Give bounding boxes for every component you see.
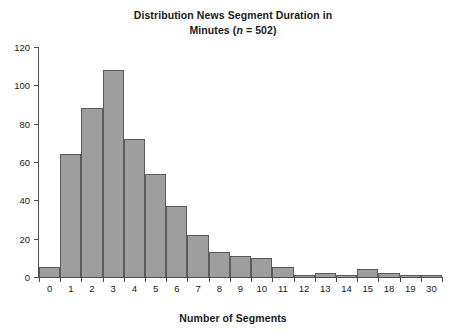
x-axis-tick-label: 7 (187, 284, 209, 294)
y-axis-tick (34, 200, 38, 201)
x-axis-tick (81, 277, 82, 282)
bar (60, 154, 81, 277)
x-axis-tick (145, 277, 146, 282)
bar (400, 275, 421, 277)
y-axis-tick-label: 0 (4, 273, 30, 282)
y-axis-tick (34, 124, 38, 125)
x-axis-tick (272, 277, 273, 282)
x-axis-tick (315, 277, 316, 282)
histogram-chart: Distribution News Segment Duration in Mi… (0, 0, 466, 335)
x-axis-tick-label: 30 (420, 284, 442, 294)
bar (357, 269, 378, 277)
x-axis-title: Number of Segments (0, 312, 466, 324)
x-axis-tick-label: 13 (314, 284, 336, 294)
bar (294, 275, 315, 277)
x-axis-tick (400, 277, 401, 282)
x-axis-tick (442, 277, 443, 282)
x-axis-tick (187, 277, 188, 282)
x-axis-tick-label: 14 (336, 284, 358, 294)
y-axis-tick-label: 20 (4, 235, 30, 244)
x-axis-tick-label: 10 (251, 284, 273, 294)
plot-area (38, 47, 442, 277)
bar (315, 273, 336, 277)
bar (145, 174, 166, 278)
y-axis-tick (34, 85, 38, 86)
bar (166, 206, 187, 277)
y-axis-tick-label: 100 (4, 81, 30, 90)
x-axis-tick (60, 277, 61, 282)
y-axis-tick-label: 80 (4, 120, 30, 129)
x-axis-tick (336, 277, 337, 282)
chart-title-prefix: Minutes ( (189, 24, 236, 36)
bar (336, 275, 357, 277)
x-axis-tick (39, 277, 40, 282)
x-axis-tick (124, 277, 125, 282)
y-axis-tick-label: 40 (4, 196, 30, 205)
x-axis-tick (103, 277, 104, 282)
x-axis-tick-label: 3 (102, 284, 124, 294)
x-axis-tick (230, 277, 231, 282)
chart-title-line-1: Distribution News Segment Duration in (0, 8, 466, 23)
bar (187, 235, 208, 277)
y-axis-tick (34, 277, 38, 278)
y-axis-tick (34, 239, 38, 240)
bar (230, 256, 251, 277)
chart-title: Distribution News Segment Duration in Mi… (0, 8, 466, 38)
bar (272, 267, 293, 277)
bar (39, 267, 60, 277)
x-axis-tick-label: 15 (357, 284, 379, 294)
x-axis-tick (421, 277, 422, 282)
bar (251, 258, 272, 277)
x-axis-tick (166, 277, 167, 282)
x-axis-tick (251, 277, 252, 282)
chart-title-suffix: = 502) (243, 24, 277, 36)
x-axis-tick (378, 277, 379, 282)
x-axis-tick (357, 277, 358, 282)
bar (124, 139, 145, 277)
chart-title-line-2: Minutes (n = 502) (0, 23, 466, 38)
x-axis-tick-label: 1 (60, 284, 82, 294)
bar (378, 273, 399, 277)
x-axis-tick-label: 12 (293, 284, 315, 294)
x-axis-tick-label: 5 (145, 284, 167, 294)
bar (421, 275, 442, 277)
x-axis-tick-label: 4 (123, 284, 145, 294)
y-axis-tick (34, 162, 38, 163)
y-axis-tick (34, 47, 38, 48)
bar (103, 70, 124, 277)
x-axis-tick-label: 2 (81, 284, 103, 294)
x-axis-tick-label: 18 (378, 284, 400, 294)
x-axis-tick (294, 277, 295, 282)
y-axis-labels: 020406080100120 (0, 47, 30, 278)
y-axis-tick-label: 60 (4, 158, 30, 167)
x-axis-tick (209, 277, 210, 282)
x-axis-tick-label: 19 (399, 284, 421, 294)
x-axis-tick-label: 6 (166, 284, 188, 294)
x-axis-line (38, 277, 442, 278)
x-axis-tick-label: 8 (208, 284, 230, 294)
bar-series (39, 47, 442, 277)
bar (209, 252, 230, 277)
bar (81, 108, 102, 277)
y-axis-tick-label: 120 (4, 43, 30, 52)
x-axis-tick-label: 0 (39, 284, 61, 294)
x-axis-tick-label: 11 (272, 284, 294, 294)
x-axis-tick-label: 9 (230, 284, 252, 294)
